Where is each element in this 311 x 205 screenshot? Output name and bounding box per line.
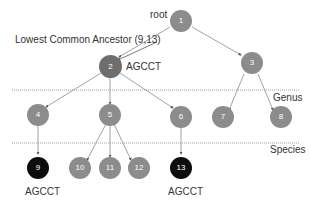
tree-node-5: 5	[99, 104, 121, 126]
tree-node-11: 11	[99, 157, 121, 179]
tree-node-10: 10	[69, 157, 91, 179]
tree-node-4: 4	[27, 104, 49, 126]
tree-node-6: 6	[170, 106, 192, 128]
tree-node-2: 2	[99, 55, 122, 78]
tree-node-12: 12	[128, 157, 150, 179]
tree-node-9: 9	[27, 157, 49, 179]
lca-label: Lowest Common Ancestor (9,13)	[15, 35, 161, 45]
root-label: root	[150, 10, 167, 20]
node-9-sequence-label: AGCCT	[25, 187, 60, 197]
tree-node-1: 1	[170, 10, 192, 32]
lca-sequence-label: AGCCT	[126, 62, 161, 72]
species-label: Species	[270, 145, 306, 155]
tree-node-8: 8	[270, 106, 292, 128]
genus-label: Genus	[273, 93, 302, 103]
tree-node-7: 7	[212, 106, 234, 128]
tree-node-3: 3	[241, 52, 263, 74]
tree-node-13: 13	[170, 157, 192, 179]
node-13-sequence-label: AGCCT	[168, 187, 203, 197]
